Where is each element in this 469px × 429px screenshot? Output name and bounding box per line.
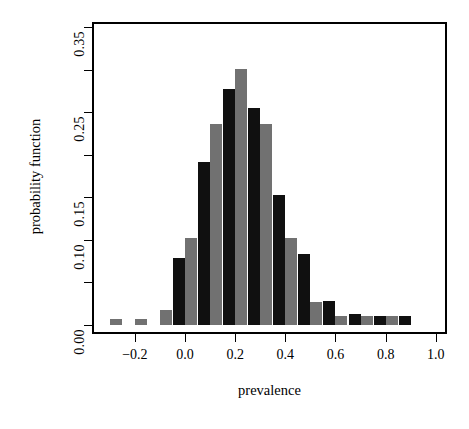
bar-gray-x0	[185, 238, 197, 325]
bar-black-x0.7	[349, 314, 361, 325]
bar-black-x0.6	[323, 301, 335, 325]
bar-gray-x0.3	[260, 124, 272, 325]
bar-black-x0.3	[248, 108, 260, 325]
bar-gray-x0.4	[285, 238, 297, 325]
bar-gray-x-0.2	[135, 319, 147, 325]
y-tick	[84, 155, 92, 156]
bar-black-x0.5	[298, 254, 310, 325]
y-tick-label: 0.10	[72, 240, 88, 274]
y-tick-label: 0.25	[72, 112, 88, 146]
bar-gray-x0.6	[335, 316, 347, 325]
x-tick-label: 0.4	[260, 347, 310, 363]
bar-black-x0.4	[273, 195, 285, 325]
bar-black-x0.1	[198, 162, 210, 325]
x-tick-label: 0.2	[210, 347, 260, 363]
bar-gray-x-0.1	[160, 310, 172, 325]
y-tick-label: 0.00	[72, 325, 88, 359]
bar-gray-x0.2	[235, 69, 247, 325]
x-tick-label: 1.0	[411, 347, 461, 363]
x-tick	[135, 334, 136, 342]
bar-black-x0.8	[374, 316, 386, 325]
x-tick-label: −0.2	[110, 347, 160, 363]
bar-gray-x-0.3	[110, 319, 122, 325]
bar-black-x0	[173, 258, 185, 325]
y-axis-title: probability function	[27, 97, 44, 257]
x-axis-title: prevalence	[72, 382, 467, 399]
y-tick-label: 0.15	[72, 197, 88, 231]
y-tick	[84, 70, 92, 71]
x-tick-label: 0.6	[310, 347, 360, 363]
chart-figure: 0.000.100.150.250.35 −0.20.00.20.40.60.8…	[0, 0, 469, 429]
bar-black-x0.2	[223, 89, 235, 325]
y-tick	[84, 282, 92, 283]
x-tick	[185, 334, 186, 342]
bar-gray-x0.8	[386, 316, 398, 325]
bar-gray-x0.7	[361, 316, 373, 325]
y-tick-label: 0.35	[72, 27, 88, 61]
bar-black-x0.9	[399, 316, 411, 325]
x-tick-label: 0.8	[361, 347, 411, 363]
x-tick	[436, 334, 437, 342]
bar-gray-x0.1	[210, 124, 222, 325]
x-tick	[386, 334, 387, 342]
bar-gray-x0.5	[310, 302, 322, 325]
x-tick	[235, 334, 236, 342]
x-tick	[335, 334, 336, 342]
x-tick	[285, 334, 286, 342]
x-tick-label: 0.0	[160, 347, 210, 363]
